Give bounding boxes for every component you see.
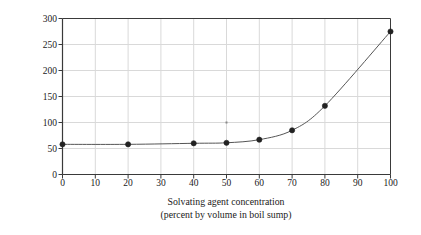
x-axis-title: Solvating agent concentration (percent b… [62,195,390,221]
grid-lines [63,19,391,175]
chart-figure: Mixture boiling point (°C) 0501001502002… [0,0,421,235]
tick-marks [59,19,391,179]
x-axis-title-line-2: (percent by volume in boil sump) [62,208,390,221]
annotation-artifacts [226,122,228,124]
x-axis-title-line-1: Solvating agent concentration [62,195,390,208]
